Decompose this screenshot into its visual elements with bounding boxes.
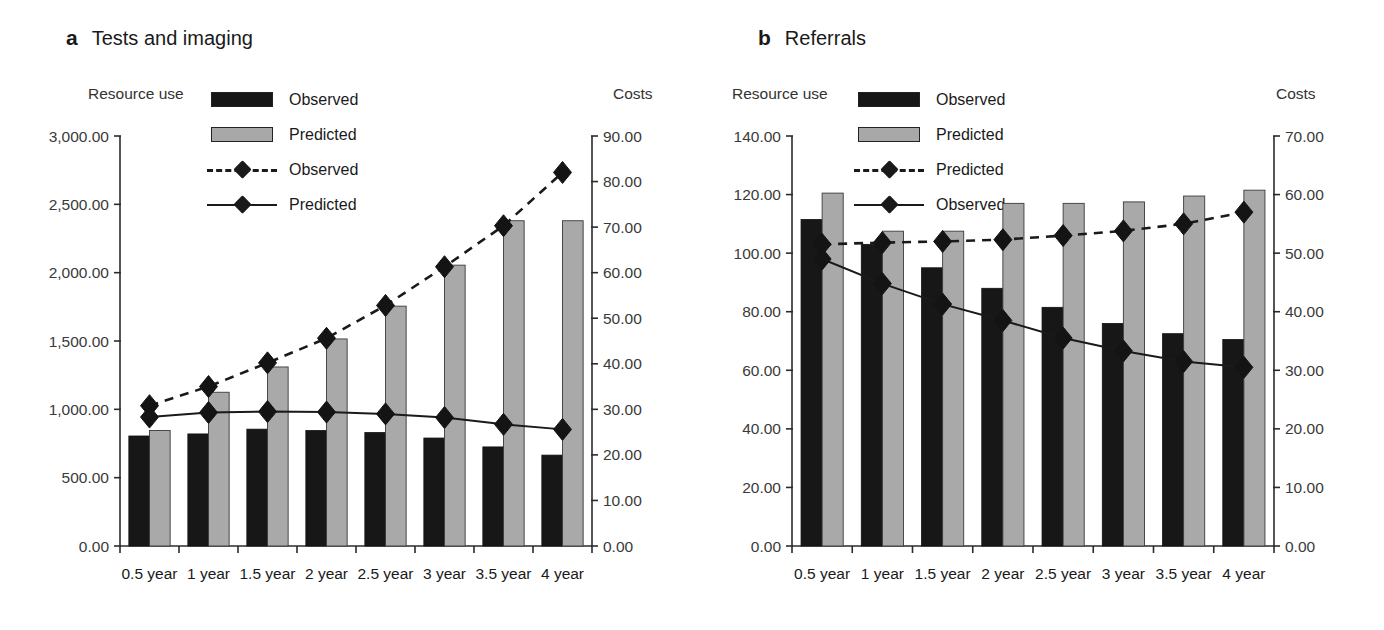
bar-observed (483, 447, 504, 546)
x-axis-category-label: 1.5 year (239, 565, 295, 582)
y2-axis-tick-label: 20.00 (603, 446, 642, 463)
y2-axis-tick-label: 40.00 (603, 355, 642, 372)
y2-axis-tick-label: 60.00 (603, 264, 642, 281)
panel-b: b Referrals Resource use Costs Observed … (692, 0, 1384, 630)
bar-observed (424, 438, 445, 546)
x-axis-category-label: 3 year (1102, 565, 1145, 582)
bar-predicted (504, 221, 525, 546)
y-axis-tick-label: 40.00 (742, 420, 781, 437)
bar-observed (188, 434, 209, 546)
y2-axis-tick-label: 10.00 (1285, 479, 1324, 496)
y-axis-tick-label: 20.00 (742, 479, 781, 496)
x-axis-category-label: 0.5 year (794, 565, 850, 582)
bar-predicted (1003, 203, 1024, 546)
bar-predicted (943, 231, 964, 546)
y-axis-tick-label: 100.00 (734, 245, 782, 262)
panel-a-plot: 0.00500.001,000.001,500.002,000.002,500.… (0, 0, 692, 630)
y-axis-tick-label: 0.00 (79, 538, 110, 555)
bar-predicted (563, 221, 584, 546)
y-axis-tick-label: 140.00 (734, 128, 782, 145)
y-axis-tick-label: 120.00 (734, 186, 782, 203)
bar-observed (247, 429, 268, 546)
y2-axis-tick-label: 70.00 (603, 219, 642, 236)
x-axis-category-label: 1.5 year (915, 565, 971, 582)
bar-observed (306, 431, 327, 546)
x-axis-category-label: 2 year (305, 565, 348, 582)
y2-axis-tick-label: 50.00 (1285, 245, 1324, 262)
panel-b-plot: 0.0020.0040.0060.0080.00100.00120.00140.… (692, 0, 1384, 630)
y2-axis-tick-label: 30.00 (1285, 362, 1324, 379)
x-axis-category-label: 4 year (541, 565, 584, 582)
y2-axis-tick-label: 70.00 (1285, 128, 1324, 145)
figure-root: a Tests and imaging Resource use Costs O… (0, 0, 1384, 630)
x-axis-category-label: 1 year (187, 565, 230, 582)
bar-predicted (150, 431, 171, 546)
bar-observed (365, 433, 386, 546)
y2-axis-tick-label: 40.00 (1285, 303, 1324, 320)
y2-axis-tick-label: 30.00 (603, 401, 642, 418)
y-axis-tick-label: 2,500.00 (49, 196, 110, 213)
x-axis-category-label: 2.5 year (357, 565, 413, 582)
bar-predicted (1184, 196, 1205, 546)
y2-axis-tick-label: 80.00 (603, 173, 642, 190)
y-axis-tick-label: 0.00 (751, 538, 782, 555)
line-observed-dashed (150, 172, 563, 405)
x-axis-category-label: 4 year (1222, 565, 1265, 582)
x-axis-category-label: 1 year (861, 565, 904, 582)
bar-predicted (1123, 202, 1144, 546)
y-axis-tick-label: 500.00 (62, 469, 110, 486)
y-axis-tick-label: 60.00 (742, 362, 781, 379)
x-axis-category-label: 2.5 year (1035, 565, 1091, 582)
y-axis-tick-label: 1,000.00 (49, 401, 110, 418)
y-axis-tick-label: 2,000.00 (49, 264, 110, 281)
y2-axis-tick-label: 90.00 (603, 128, 642, 145)
x-axis-category-label: 3.5 year (1156, 565, 1212, 582)
y2-axis-tick-label: 50.00 (603, 310, 642, 327)
y2-axis-tick-label: 20.00 (1285, 420, 1324, 437)
x-axis-category-label: 3 year (423, 565, 466, 582)
x-axis-category-label: 2 year (981, 565, 1024, 582)
bar-predicted (445, 265, 466, 546)
panel-a: a Tests and imaging Resource use Costs O… (0, 0, 692, 630)
y2-axis-tick-label: 60.00 (1285, 186, 1324, 203)
diamond-marker-icon (554, 161, 572, 183)
bar-observed (542, 455, 563, 546)
bar-predicted (386, 306, 407, 546)
x-axis-category-label: 3.5 year (475, 565, 531, 582)
y2-axis-tick-label: 0.00 (1285, 538, 1316, 555)
y-axis-tick-label: 1,500.00 (49, 333, 110, 350)
y-axis-tick-label: 3,000.00 (49, 128, 110, 145)
x-axis-category-label: 0.5 year (121, 565, 177, 582)
y2-axis-tick-label: 10.00 (603, 492, 642, 509)
y2-axis-tick-label: 0.00 (603, 538, 634, 555)
bar-observed (129, 436, 150, 546)
bar-predicted (327, 339, 348, 546)
bar-observed (801, 219, 822, 546)
y-axis-tick-label: 80.00 (742, 303, 781, 320)
bar-predicted (1063, 203, 1084, 546)
bar-predicted (268, 367, 289, 546)
